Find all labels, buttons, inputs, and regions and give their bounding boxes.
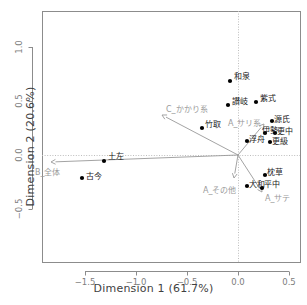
point-label: 浮舟 — [249, 133, 265, 144]
vector-label: A_サテ — [265, 192, 290, 203]
vector-label: A_その他 — [203, 184, 236, 195]
point-label: 枕草 — [267, 166, 283, 177]
vector-label: A_サリ系 — [228, 117, 261, 128]
point-label: 讃岐 — [232, 95, 248, 106]
point-label: 竹取 — [205, 118, 221, 129]
biplot-chart: −1.5−1.0−0.50.00.51.00.50.0−0.5C_かかり系B_全… — [0, 0, 307, 305]
x-axis-title: Dimension 1 (61.7%) — [0, 282, 307, 295]
point-label: 平中 — [264, 178, 280, 189]
vector-label: C_かかり系 — [166, 103, 208, 114]
point-label: 和泉 — [234, 70, 250, 81]
y-axis-title: Dimension 2 (20.6%) — [24, 22, 37, 272]
point-label: 大和 — [249, 178, 265, 189]
y-tick-label: 0.0 — [14, 143, 24, 167]
x-axis-tick-marks — [86, 272, 290, 276]
point-label: 源氏 — [274, 113, 290, 124]
vector-label: B_全体 — [35, 166, 61, 177]
y-tick-label: 0.5 — [14, 89, 24, 113]
y-tick-label: −0.5 — [14, 197, 24, 221]
point-label: 紫式 — [260, 92, 276, 103]
point-label: 土左 — [108, 150, 124, 161]
point-label: 更級 — [272, 135, 288, 146]
point-label: 古今 — [86, 170, 102, 181]
y-tick-label: 1.0 — [14, 35, 24, 59]
plot-canvas — [0, 0, 307, 305]
